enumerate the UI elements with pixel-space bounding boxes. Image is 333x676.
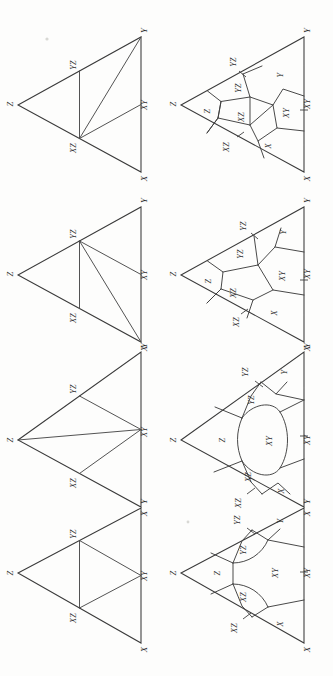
cell-boundary-y-left <box>261 382 287 394</box>
edge-tick-xz <box>247 488 255 494</box>
edge-tick-xz <box>243 613 251 619</box>
region-label-y: Y <box>276 71 285 77</box>
triangulation-1: Z Y X YZ XY XZ <box>5 27 149 182</box>
cell-edge-z-top <box>211 553 233 563</box>
row-3: Z Y X YZ XY XZ <box>5 342 312 517</box>
edge-label-yz: YZ <box>229 57 238 67</box>
region-label-x: X <box>277 488 286 495</box>
midpoint-label-xz: XZ <box>69 143 78 154</box>
edge-yz-xy <box>80 396 142 430</box>
region-label-yz: YZ <box>236 249 245 259</box>
region-label-y: Y <box>280 368 289 374</box>
vertex-label-x: X <box>139 175 149 182</box>
vertex-label-z: Z <box>168 101 178 106</box>
region-label-xz: XZ <box>229 288 238 299</box>
edge-xz-xy <box>80 430 142 474</box>
vertex-label-y: Y <box>302 342 312 348</box>
outer-triangle <box>18 352 141 507</box>
cell-edge-yz-left <box>254 236 258 265</box>
cell-decomposition-4: Z Y X YZ XZ XY Z YZ Y <box>168 498 312 653</box>
cell-edge-x-top <box>268 600 304 607</box>
outer-triangle <box>181 37 304 172</box>
edge-yz-x <box>80 241 142 342</box>
cell-edge-z-yz <box>223 265 258 272</box>
cell-edge-y-bottom <box>268 540 304 547</box>
edge-label-xy: XY <box>303 98 312 110</box>
row-4: Z Y X YZ XY XZ <box>5 498 312 653</box>
vertex-label-y: Y <box>139 197 149 203</box>
region-label-x: X <box>276 621 285 628</box>
vertex-label-x: X <box>139 646 149 653</box>
midpoint-label-yz: YZ <box>69 384 78 394</box>
edge-label-xz: XZ <box>232 317 241 328</box>
edge-z-xy <box>18 430 141 441</box>
edge-xz-y <box>80 37 142 139</box>
midpoint-label-xy: XY <box>140 570 149 582</box>
cell-boundary-y <box>250 89 304 105</box>
region-label-x: X <box>264 143 273 150</box>
vertex-label-y: Y <box>139 27 149 33</box>
cell-edge-xy-y <box>280 400 304 412</box>
cell-decomposition-3: Z Y X YZ XZ XY Z YZ Y <box>168 342 312 517</box>
region-label-xy: XY <box>265 435 274 447</box>
triangulation-2: Z Y X YZ XY XZ <box>5 197 149 352</box>
midpoint-label-xz: XZ <box>69 613 78 624</box>
midpoint-label-yz: YZ <box>69 529 78 539</box>
cell-edge-z-right <box>218 102 221 119</box>
edge-label-xz: XZ <box>222 142 231 153</box>
edge-xz-xy <box>80 105 142 139</box>
edge-label-xy: XY <box>303 567 312 579</box>
vertex-label-x: X <box>302 175 312 182</box>
cell-boundary-y-left <box>258 228 281 265</box>
edge-yz-xy <box>80 541 142 576</box>
vertex-label-x: X <box>302 646 312 653</box>
cell-edge-xz-x <box>252 607 268 617</box>
region-label-xz: XZ <box>239 592 248 603</box>
edge-tick-xz <box>237 132 244 137</box>
cell-edge-z-bottom <box>211 584 233 594</box>
midpoint-label-xz: XZ <box>69 313 78 324</box>
cell-boundary-xy-center <box>238 405 288 475</box>
region-label-z: Z <box>213 570 222 575</box>
midpoint-label-xy: XY <box>140 426 149 438</box>
edge-label-xy: XY <box>303 268 312 280</box>
region-label-z: Z <box>203 108 212 113</box>
triangulation-3: Z Y X YZ XY XZ <box>5 342 149 517</box>
vertex-label-z: Z <box>5 437 15 442</box>
region-label-yz: YZ <box>239 545 248 555</box>
cell-edge-y-bottom <box>276 394 304 400</box>
edge-xz-xy <box>80 576 142 609</box>
figure-sheet: Z Y X YZ XY XZ <box>0 0 333 676</box>
region-label-xy: XY <box>278 270 287 282</box>
edge-label-yz: YZ <box>233 515 242 525</box>
vertex-label-y: Y <box>302 27 312 33</box>
cell-edge-xy-left <box>250 105 273 125</box>
midpoint-label-xy: XY <box>140 269 149 281</box>
region-label-yz: YZ <box>247 395 256 405</box>
vertex-label-z: Z <box>168 271 178 276</box>
edge-label-xz: XZ <box>234 498 243 509</box>
vertex-label-z: Z <box>5 570 15 575</box>
vertex-label-z: Z <box>5 271 15 276</box>
region-label-x: X <box>270 310 279 317</box>
cell-boundary-y-left <box>252 529 280 540</box>
edge-tick-yz <box>239 71 246 77</box>
cell-edge-y-bottom <box>275 247 304 252</box>
midpoint-label-xy: XY <box>140 99 149 111</box>
row-1: Z Y X YZ XY XZ <box>5 27 312 182</box>
midpoint-label-yz: YZ <box>69 60 78 70</box>
region-label-xy: XY <box>282 107 291 119</box>
triangulation-4: Z Y X YZ XY XZ <box>5 498 149 653</box>
cell-decomposition-2: Z Y X YZ XZ XY Z YZ Y <box>168 197 312 352</box>
midpoint-label-xz: XZ <box>69 478 78 489</box>
edge-label-xz: XZ <box>230 623 239 634</box>
cell-boundary-x <box>258 128 277 158</box>
region-label-xz: XZ <box>244 472 253 483</box>
vertex-label-y: Y <box>302 197 312 203</box>
region-label-z: Z <box>204 278 213 283</box>
region-label-xy: XY <box>271 567 280 579</box>
cell-edge-yz-top <box>243 66 262 74</box>
edge-label-xy: XY <box>303 434 312 446</box>
vertex-label-y: Y <box>139 342 149 348</box>
outer-triangle <box>181 508 304 643</box>
